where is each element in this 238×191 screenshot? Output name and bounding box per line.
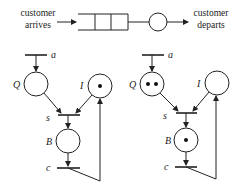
arrives-label-line2: arrives [25, 20, 51, 30]
label-I: I [79, 80, 84, 91]
label-c: c [164, 161, 169, 172]
place-Q [24, 72, 48, 96]
label-I: I [196, 78, 201, 89]
queue-model: customer arrives customer departs [21, 8, 230, 31]
label-Q: Q [129, 79, 137, 90]
queue-petri-diagram: customer arrives customer departs a Q I … [0, 0, 238, 191]
label-a: a [168, 49, 173, 60]
label-B: B [46, 136, 52, 147]
server-circle [149, 13, 167, 31]
departs-label-line1: customer [194, 8, 230, 18]
label-s: s [46, 112, 50, 123]
token [98, 84, 102, 88]
petri-net-right: a Q I s B c [129, 49, 229, 179]
petri-net-left: a Q I s B c [13, 49, 112, 181]
label-s: s [163, 110, 167, 121]
token [184, 138, 188, 142]
arrives-label-line1: customer [21, 8, 57, 18]
place-B [56, 129, 80, 153]
label-a: a [51, 49, 56, 60]
token [154, 82, 158, 86]
place-I [205, 71, 229, 95]
departs-label-line2: departs [197, 20, 225, 30]
place-Q [140, 72, 164, 96]
label-Q: Q [13, 79, 21, 90]
label-B: B [165, 135, 171, 146]
label-c: c [46, 162, 51, 173]
queue-buffer [78, 14, 128, 30]
token [146, 82, 150, 86]
